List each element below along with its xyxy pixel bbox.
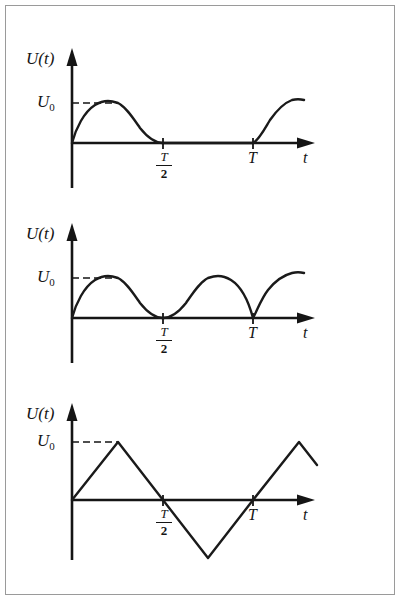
chart3-y-axis-label: U(t) [26,405,54,422]
chart3-amplitude-label: U0 [37,432,55,452]
figure-root: U(t) U0 T 2 T t U(t) U0 T 2 T t [0,0,405,613]
chart3-tick-half-period-denominator: 2 [156,524,172,538]
chart3-tick-half-period: T 2 [156,507,172,537]
chart3-tick-period: T [248,507,257,523]
chart-triangular-wave [0,0,405,613]
chart3-tick-half-period-numerator: T [156,507,172,521]
chart3-x-axis-label: t [303,507,307,523]
chart3-amplitude-subscript: 0 [49,440,55,452]
chart3-amplitude-letter: U [37,431,49,450]
